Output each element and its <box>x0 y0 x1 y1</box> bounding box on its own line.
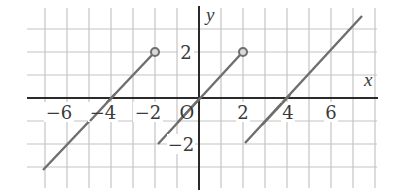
open-circle-point <box>151 48 159 56</box>
x-tick-label: −4 <box>90 102 117 123</box>
x-axis-label: x <box>363 69 373 90</box>
x-tick-label: 4 <box>282 102 293 123</box>
function-graph: −6 −4 −2 2 4 6 O 2 −2 y x <box>0 0 393 195</box>
y-tick-label: −2 <box>168 134 195 155</box>
x-tick-label: 2 <box>237 102 248 123</box>
open-circle-point <box>239 48 247 56</box>
x-tick-label: 6 <box>325 102 336 123</box>
x-tick-label: −2 <box>135 102 162 123</box>
y-axis-label: y <box>204 4 215 25</box>
x-tick-label: −6 <box>46 102 73 123</box>
origin-label: O <box>180 102 195 123</box>
y-tick-label: 2 <box>180 42 191 63</box>
